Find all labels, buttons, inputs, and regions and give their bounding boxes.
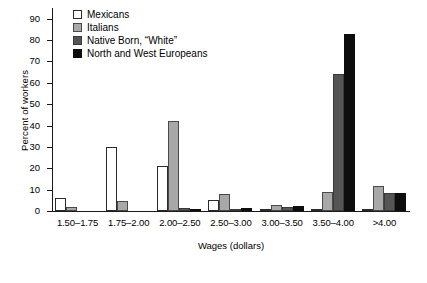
legend-label: Mexicans — [87, 9, 129, 20]
bar — [333, 74, 344, 211]
legend: MexicansItaliansNative Born, “White”Nort… — [73, 8, 207, 59]
bar — [395, 193, 406, 211]
bar — [311, 209, 322, 211]
legend-item: Native Born, “White” — [73, 34, 207, 46]
bar — [373, 186, 384, 211]
bar — [117, 201, 128, 211]
legend-label: Native Born, “White” — [87, 35, 177, 46]
y-tick-label: 10 — [29, 184, 40, 195]
y-tick-label: 30 — [29, 141, 40, 152]
bar — [260, 209, 271, 211]
legend-swatch-icon — [73, 10, 82, 19]
bar — [168, 121, 179, 211]
bar — [362, 209, 373, 211]
bar — [282, 207, 293, 211]
x-axis-line — [52, 211, 410, 212]
x-tick-label: 1.50–1.75 — [57, 217, 98, 228]
bar — [241, 208, 252, 211]
bar — [190, 209, 201, 211]
x-tick-label: 1.75–2.00 — [108, 217, 149, 228]
x-tick-label: 2.00–2.50 — [159, 217, 200, 228]
bar — [322, 192, 333, 211]
chart-figure: Percent of workers 0102030405060708090 1… — [0, 0, 427, 283]
bar-group: 3.50–4.00 — [308, 8, 359, 211]
bar — [179, 208, 190, 211]
y-tick-label: 70 — [29, 55, 40, 66]
x-tick-label: 2.50–3.00 — [210, 217, 251, 228]
legend-item: Italians — [73, 21, 207, 33]
bar — [271, 205, 282, 211]
bar — [106, 147, 117, 211]
y-tick-label: 40 — [29, 120, 40, 131]
legend-item: Mexicans — [73, 8, 207, 20]
y-tick-label: 20 — [29, 162, 40, 173]
bar — [66, 207, 77, 211]
x-axis-title: Wages (dollars) — [52, 240, 410, 251]
y-axis-title: Percent of workers — [19, 26, 30, 196]
y-tick-label: 0 — [35, 205, 40, 216]
bar — [219, 194, 230, 211]
y-tick-label: 60 — [29, 77, 40, 88]
legend-label: North and West Europeans — [87, 48, 207, 59]
legend-swatch-icon — [73, 23, 82, 32]
x-tick-label: >4.00 — [373, 217, 397, 228]
y-tick-label: 50 — [29, 98, 40, 109]
legend-swatch-icon — [73, 49, 82, 58]
legend-swatch-icon — [73, 36, 82, 45]
legend-item: North and West Europeans — [73, 47, 207, 59]
bar — [230, 209, 241, 211]
y-tick-label: 80 — [29, 34, 40, 45]
y-tick-label: 90 — [29, 13, 40, 24]
x-tick-label: 3.50–4.00 — [313, 217, 354, 228]
bar — [55, 198, 66, 211]
bar-group: 2.50–3.00 — [205, 8, 256, 211]
x-tick-label: 3.00–3.50 — [261, 217, 302, 228]
bar — [384, 193, 395, 211]
bar-group: 3.00–3.50 — [257, 8, 308, 211]
bar — [293, 206, 304, 211]
bar — [344, 34, 355, 211]
bar-group: >4.00 — [359, 8, 410, 211]
legend-label: Italians — [87, 22, 119, 33]
y-tick: 0 — [47, 211, 52, 212]
bar — [157, 166, 168, 211]
bar — [208, 200, 219, 211]
